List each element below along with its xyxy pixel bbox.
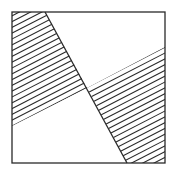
hatch-line bbox=[0, 117, 175, 177]
hatch-line bbox=[0, 152, 175, 177]
hatch-line bbox=[0, 175, 175, 177]
hatched-square-diagram bbox=[0, 0, 175, 177]
hatch-line bbox=[0, 0, 175, 68]
hatch-line bbox=[0, 100, 175, 177]
hatch-line bbox=[0, 19, 175, 109]
hatch-line bbox=[0, 146, 175, 177]
hatch-line bbox=[0, 25, 175, 115]
hatch-line bbox=[0, 0, 175, 45]
hatch-line bbox=[0, 30, 175, 120]
hatch-line bbox=[0, 0, 175, 22]
hatch-line bbox=[0, 71, 175, 161]
hatch-line bbox=[0, 141, 175, 177]
hatch-line bbox=[0, 0, 175, 10]
hatch-line bbox=[0, 164, 175, 177]
hatch-line bbox=[0, 0, 175, 45]
hatched-region-lower-right bbox=[0, 0, 175, 177]
hatch-line bbox=[0, 0, 175, 5]
diagram-canvas bbox=[0, 0, 175, 177]
hatch-line bbox=[0, 7, 175, 97]
hatch-line bbox=[0, 59, 175, 149]
hatch-line bbox=[0, 106, 175, 177]
steep-dividing-line bbox=[45, 12, 127, 163]
hatched-region-upper-left bbox=[0, 0, 175, 177]
hatch-line bbox=[0, 112, 175, 177]
hatch-line bbox=[0, 141, 175, 177]
hatch-line bbox=[0, 1, 175, 91]
hatch-line bbox=[0, 0, 175, 28]
hatch-line bbox=[0, 170, 175, 177]
hatch-line bbox=[0, 0, 175, 5]
hatch-line bbox=[0, 158, 175, 177]
hatch-line bbox=[0, 170, 175, 177]
hatch-line bbox=[0, 158, 175, 177]
hatch-line bbox=[0, 48, 175, 138]
hatch-line bbox=[0, 164, 175, 177]
hatch-line bbox=[0, 146, 175, 177]
hatch-line bbox=[0, 0, 175, 57]
hatch-line bbox=[0, 0, 175, 10]
hatch-line bbox=[0, 135, 175, 177]
hatch-line bbox=[0, 175, 175, 177]
hatch-line bbox=[0, 117, 175, 177]
hatch-line bbox=[0, 135, 175, 177]
hatch-line bbox=[0, 0, 175, 57]
hatch-line bbox=[0, 152, 175, 177]
hatch-line bbox=[0, 100, 175, 177]
hatch-line bbox=[0, 0, 175, 22]
hatch-line bbox=[0, 83, 175, 173]
hatch-line bbox=[0, 0, 175, 68]
hatch-line bbox=[0, 0, 175, 34]
hatch-line bbox=[0, 65, 175, 155]
hatch-line bbox=[0, 112, 175, 177]
hatch-line bbox=[0, 106, 175, 177]
hatch-line bbox=[0, 0, 175, 34]
hatch-line bbox=[0, 54, 175, 144]
hatch-line bbox=[0, 36, 175, 126]
